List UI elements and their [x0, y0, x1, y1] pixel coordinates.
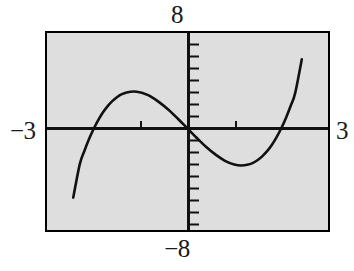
plot-frame	[45, 31, 330, 232]
x-axis-min-label: −3	[10, 118, 36, 143]
y-axis-max-label: 8	[0, 2, 354, 27]
x-axis-max-label: 3	[336, 118, 348, 143]
y-axis-min-label: −8	[0, 236, 354, 261]
plot-canvas	[47, 33, 328, 230]
graph-figure: 8 −3 3 −8	[0, 0, 354, 271]
